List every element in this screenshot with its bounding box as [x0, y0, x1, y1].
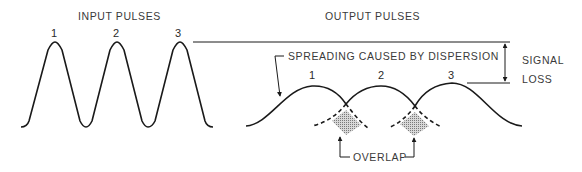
- signal-loss-label-line1: SIGNAL: [522, 55, 564, 66]
- input-pulse-label-1: 1: [51, 28, 57, 39]
- output-pulses-title: OUTPUT PULSES: [325, 11, 420, 22]
- output-pulse-2: [346, 86, 415, 106]
- overlap-region-1: [332, 110, 361, 135]
- overlap-region-2: [400, 112, 429, 136]
- input-pulse-label-2: 2: [113, 28, 119, 39]
- spreading-annotation: SPREADING CAUSED BY DISPERSION: [288, 51, 499, 62]
- spreading-pointer: [275, 56, 284, 96]
- input-pulses-title: INPUT PULSES: [78, 11, 161, 22]
- output-pulse-label-3: 3: [448, 70, 454, 81]
- input-pulse-train: [21, 42, 213, 127]
- output-pulse-1: [246, 86, 346, 126]
- output-pulse-3: [415, 83, 522, 126]
- overlap-pointer-1: [340, 137, 350, 157]
- signal-loss-label-line2: LOSS: [522, 74, 552, 85]
- output-pulse-label-1: 1: [309, 70, 315, 81]
- overlap-annotation: OVERLAP: [353, 152, 407, 163]
- pulse-dispersion-diagram: [0, 0, 582, 172]
- input-pulse-label-3: 3: [175, 28, 181, 39]
- output-pulse-label-2: 2: [378, 70, 384, 81]
